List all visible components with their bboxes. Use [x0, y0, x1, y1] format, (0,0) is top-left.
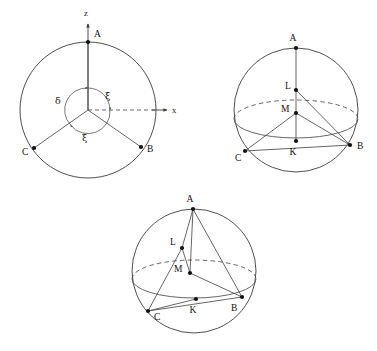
panel3-label-K: K — [190, 305, 197, 315]
panel3-label-C: C — [154, 312, 160, 322]
panel-sphere-inscribed-triangle-upright: A L M K B C — [234, 33, 363, 172]
panel2-label-B: B — [357, 141, 363, 151]
panel3-label-L: L — [170, 237, 176, 247]
panel1-label-C: C — [22, 147, 28, 157]
panel1-radius-center-B — [88, 110, 141, 147]
panel1-label-xi-upper: ξ — [105, 90, 110, 101]
panel1-radius-center-C — [34, 110, 88, 148]
panel2-label-C: C — [235, 153, 241, 163]
panel3-vertex-K — [194, 297, 198, 301]
panel3-label-A: A — [187, 194, 194, 204]
panel2-label-M: M — [281, 104, 290, 114]
panel3-chord-C-L — [148, 248, 182, 311]
geometry-figure: z x A B C δ ξ ξ — [0, 0, 377, 351]
panel2-vertex-L — [294, 88, 298, 92]
panel2-vertex-M — [294, 111, 298, 115]
panel3-vertex-M — [188, 271, 192, 275]
panel1-label-A: A — [94, 29, 101, 39]
panel1-label-B: B — [147, 144, 153, 154]
panel3-vertex-B — [240, 295, 244, 299]
panel-sphere-inscribed-triangle-rotated: A L M K B C — [132, 194, 256, 333]
label-z-axis: z — [84, 8, 88, 18]
panel2-label-L: L — [285, 81, 291, 91]
panel1-vertex-C — [32, 146, 36, 150]
panel2-vertex-A — [294, 46, 298, 50]
figure-canvas: z x A B C δ ξ ξ — [0, 0, 377, 351]
panel3-label-B: B — [231, 303, 237, 313]
panel1-label-delta: δ — [55, 95, 61, 106]
panel3-label-M: M — [174, 264, 183, 274]
panel3-equator-back-dashed — [132, 260, 256, 279]
panel2-chord-C-B — [245, 145, 350, 151]
panel2-vertex-C — [243, 149, 247, 153]
panel2-chord-M-C — [245, 113, 296, 151]
panel3-vertex-A — [191, 207, 195, 211]
panel3-vertex-L — [180, 246, 184, 250]
panel1-vertex-B — [139, 145, 143, 149]
angle-arc-delta — [65, 88, 88, 125]
panel2-vertex-B — [348, 143, 352, 147]
panel1-vertex-A — [86, 40, 90, 44]
panel3-chord-M-B — [190, 273, 242, 297]
panel2-label-A: A — [290, 33, 297, 43]
panel3-chord-A-B — [193, 209, 242, 297]
panel2-label-K: K — [290, 147, 297, 157]
panel-reference-sphere-with-axes: z x A B C δ ξ ξ — [20, 8, 177, 178]
angle-arc-xi-lower — [71, 110, 111, 134]
panel2-vertex-K — [294, 139, 298, 143]
panel1-label-xi-lower: ξ — [82, 132, 87, 143]
label-x-axis: x — [172, 105, 177, 115]
panel3-vertex-C — [146, 309, 150, 313]
